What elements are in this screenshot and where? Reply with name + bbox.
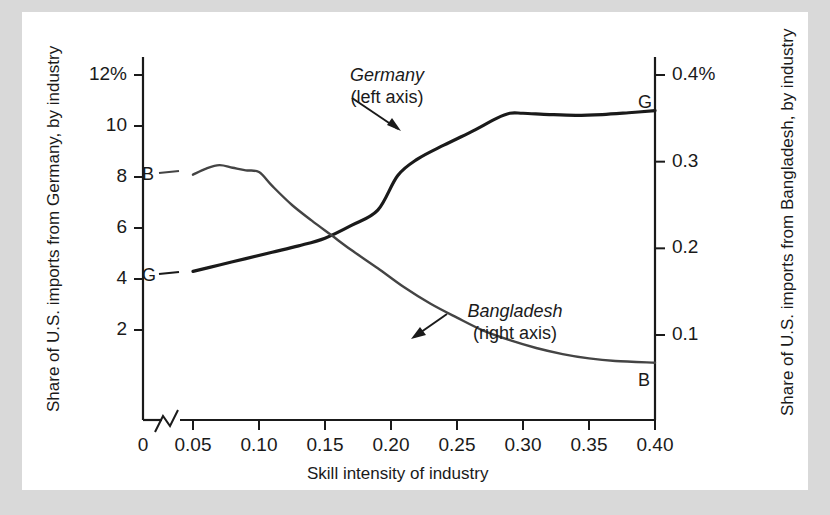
chart-card: 12%108642 0.4%0.30.20.1 00.050.100.150.2… <box>22 12 808 490</box>
bangladesh-annotation: Bangladesh (right axis) <box>440 300 590 344</box>
figure-page: 12%108642 0.4%0.30.20.1 00.050.100.150.2… <box>0 0 830 515</box>
right-axis-ticks <box>655 75 665 335</box>
x-tick-label-0.40: 0.40 <box>637 434 674 456</box>
left-tick-label-2: 2 <box>77 318 127 340</box>
chart-figure: 12%108642 0.4%0.30.20.1 00.050.100.150.2… <box>22 12 808 490</box>
left-tick-label-10: 10 <box>77 114 127 136</box>
germany-start-leader <box>159 272 179 274</box>
x-tick-label-0.20: 0.20 <box>373 434 410 456</box>
germany-line <box>193 111 655 272</box>
x-tick-label-0.10: 0.10 <box>241 434 278 456</box>
bangladesh-annotation-name: Bangladesh <box>467 301 562 321</box>
germany-annotation-name: Germany <box>350 65 424 85</box>
x-tick-label-0.25: 0.25 <box>439 434 476 456</box>
left-tick-label-12: 12% <box>77 63 127 85</box>
right-tick-label-0.3: 0.3 <box>672 150 698 172</box>
left-axis-title: Share of U.S. imports from Germany, by i… <box>44 46 64 412</box>
germany-start-label: G <box>142 265 156 286</box>
x-axis-title: Skill intensity of industry <box>307 464 488 484</box>
left-tick-label-6: 6 <box>77 216 127 238</box>
x-tick-label-0: 0 <box>138 434 149 456</box>
bangladesh-end-label: B <box>638 370 650 391</box>
right-tick-label-0.2: 0.2 <box>672 236 698 258</box>
bottom-axis-ticks <box>193 420 655 430</box>
bangladesh-annotation-sub: (right axis) <box>473 323 557 343</box>
left-tick-label-8: 8 <box>77 165 127 187</box>
left-tick-label-4: 4 <box>77 267 127 289</box>
x-tick-label-0.05: 0.05 <box>175 434 212 456</box>
right-axis-title: Share of U.S. imports from Bangladesh, b… <box>778 29 798 416</box>
left-axis-ticks <box>134 75 143 330</box>
right-tick-label-0.1: 0.1 <box>672 323 698 345</box>
x-tick-label-0.30: 0.30 <box>505 434 542 456</box>
germany-annotation-sub: (left axis) <box>350 87 423 107</box>
x-tick-label-0.15: 0.15 <box>307 434 344 456</box>
bangladesh-start-leader <box>159 171 179 173</box>
bangladesh-start-label: B <box>142 164 154 185</box>
x-tick-label-0.35: 0.35 <box>571 434 608 456</box>
right-tick-label-0.4: 0.4% <box>672 63 715 85</box>
germany-annotation: Germany (left axis) <box>322 64 452 108</box>
germany-end-label: G <box>638 92 652 113</box>
